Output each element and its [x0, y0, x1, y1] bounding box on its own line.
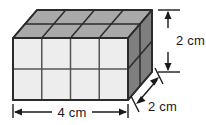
- dimension-height: 2 cm: [158, 10, 205, 72]
- depth-label: 2 cm: [148, 99, 177, 114]
- depth-arrowhead-back: [150, 77, 159, 86]
- prism-solid: [13, 10, 152, 100]
- width-label: 4 cm: [58, 105, 87, 120]
- depth-tick-front: [131, 96, 139, 112]
- width-arrowhead-left: [14, 109, 22, 116]
- width-arrowhead-right: [119, 109, 127, 116]
- height-arrowhead-bottom: [165, 63, 172, 71]
- rectangular-prism-diagram: 4 cm 2 cm: [0, 0, 206, 125]
- height-label: 2 cm: [176, 33, 205, 48]
- dimension-width: 4 cm: [13, 104, 128, 120]
- height-arrowhead-top: [165, 11, 172, 19]
- depth-arrowhead-front: [136, 96, 146, 104]
- figure-container: 4 cm 2 cm: [0, 0, 206, 125]
